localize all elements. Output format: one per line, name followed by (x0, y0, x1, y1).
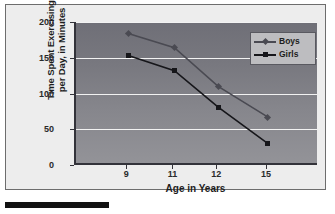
legend-label-girls: Girls (276, 49, 298, 60)
x-axis-tick-label: 12 (204, 170, 228, 179)
x-axis-title: Age in Years (74, 183, 317, 194)
x-axis-tick-label: 9 (114, 170, 138, 179)
y-axis-tick-label: 100 (24, 90, 54, 99)
legend-item-boys: Boys (254, 35, 312, 48)
bottom-black-bar (5, 202, 109, 208)
square-marker-icon (216, 105, 221, 110)
x-axis-tick-label: 11 (160, 170, 184, 179)
legend-swatch-girls (254, 49, 276, 60)
x-axis-tick-label: 15 (254, 170, 278, 179)
legend-label-boys: Boys (276, 36, 300, 47)
diamond-marker-icon (261, 38, 268, 45)
y-axis-tick-label: 150 (24, 54, 54, 63)
square-marker-icon (265, 141, 270, 146)
chart-screenshot: Time Spent Exercising per Day, in Minute… (0, 0, 335, 214)
y-axis-tick-mark (70, 165, 74, 166)
square-marker-icon (172, 68, 177, 73)
square-marker-icon (263, 52, 268, 57)
chart-legend: Boys Girls (250, 32, 316, 65)
y-axis-tick-label: 200 (24, 18, 54, 27)
square-marker-icon (126, 53, 131, 58)
y-axis-title-line2: per Day, in Minutes (56, 0, 67, 106)
y-axis-tick-label: 0 (24, 161, 54, 170)
legend-swatch-boys (254, 36, 276, 47)
figure-frame: Time Spent Exercising per Day, in Minute… (5, 4, 326, 190)
legend-item-girls: Girls (254, 48, 312, 61)
series-line-boys (128, 33, 268, 117)
y-axis-tick-label: 50 (24, 125, 54, 134)
